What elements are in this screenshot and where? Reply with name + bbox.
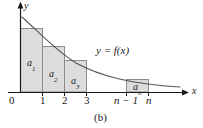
origin-label: 0	[9, 95, 15, 106]
curve-label: y = f(x)	[96, 45, 129, 56]
x-tick-label-n-minus-1: n − 1	[114, 95, 138, 106]
bar-label-a2: a2	[49, 69, 58, 82]
bars-group	[21, 29, 149, 93]
x-tick-label-3: 3	[84, 95, 90, 106]
x-axis-label: x	[192, 86, 196, 96]
bar-label-a1-subscript: 1	[32, 65, 36, 73]
figure-container: y x 0 1 2 3 n − 1 n a1 a2 a3 an y = f(x)…	[0, 0, 203, 128]
x-tick-label-1: 1	[40, 95, 46, 106]
bar-label-a1: a1	[27, 58, 36, 71]
y-axis-label: y	[24, 1, 28, 11]
figure-caption: (b)	[94, 112, 107, 123]
x-tick-label-2: 2	[62, 95, 68, 106]
bar-label-an: an	[133, 82, 142, 95]
bar-label-a2-subscript: 2	[54, 76, 58, 84]
bar-label-a3: a3	[71, 76, 80, 89]
bar-label-a3-subscript: 3	[76, 83, 80, 91]
x-tick-label-n: n	[146, 95, 152, 106]
bar-label-an-subscript: n	[138, 89, 142, 97]
